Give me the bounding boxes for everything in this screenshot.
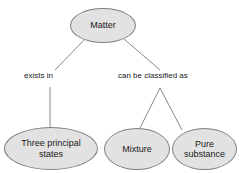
node-mixture[interactable]: Mixture xyxy=(104,128,170,170)
edge-can-be-classified-as-to-pure-substance xyxy=(160,88,182,130)
node-three-principal-states[interactable]: Three principal states xyxy=(4,127,98,170)
diagram-canvas: Matter Three principal states Mixture Pu… xyxy=(0,0,239,173)
edge-label-can-be-classified-as: can be classified as xyxy=(117,71,189,80)
node-mixture-label: Mixture xyxy=(118,144,156,154)
edge-matter-to-can-be-classified-as xyxy=(124,39,160,70)
edge-matter-to-exists-in xyxy=(55,38,86,70)
node-pure-substance[interactable]: Pure substance xyxy=(172,128,237,170)
node-three-principal-states-label: Three principal states xyxy=(17,138,85,159)
node-pure-substance-label: Pure substance xyxy=(180,139,229,160)
node-matter[interactable]: Matter xyxy=(70,8,136,43)
node-matter-label: Matter xyxy=(86,20,120,30)
edge-can-be-classified-as-to-mixture xyxy=(139,88,160,130)
edge-label-exists-in: exists in xyxy=(23,71,54,80)
